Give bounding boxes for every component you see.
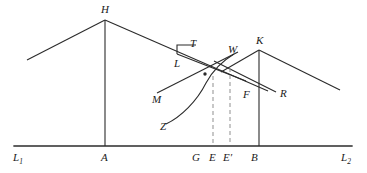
axis-label-G: G	[192, 152, 200, 163]
geometry-figure: H T W K L F R M Z L1 A G E E′ B L2	[0, 0, 367, 173]
axis-label-L1: L1	[13, 152, 23, 166]
axis-label-L1-subscript: 1	[19, 157, 23, 166]
axis-label-B: B	[251, 152, 258, 163]
point-label-Z: Z	[160, 121, 166, 132]
line-H-left-slope	[27, 20, 105, 60]
axis-label-A: A	[101, 152, 108, 163]
axis-label-E-prime: E′	[223, 152, 232, 163]
point-label-K: K	[256, 35, 263, 46]
line-K-right-slope	[259, 50, 340, 90]
line-K-left-slope	[221, 50, 259, 72]
point-label-R: R	[280, 88, 287, 99]
point-label-T: T	[190, 38, 196, 49]
figure-canvas	[0, 0, 367, 173]
axis-label-L2: L2	[341, 152, 351, 166]
intersection-dot-1	[203, 72, 206, 75]
axis-label-E: E	[209, 152, 216, 163]
point-label-F: F	[243, 89, 250, 100]
point-label-L: L	[174, 58, 180, 69]
point-label-M: M	[152, 94, 161, 105]
axis-label-L2-subscript: 2	[347, 157, 351, 166]
point-label-H: H	[101, 4, 109, 15]
point-label-W: W	[228, 44, 237, 55]
line-T-to-F	[177, 54, 246, 81]
